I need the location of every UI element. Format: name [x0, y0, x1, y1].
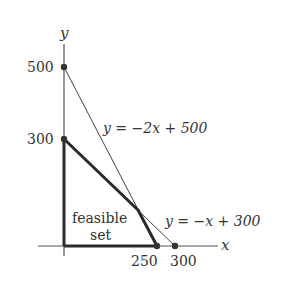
point-0-500: [61, 64, 67, 70]
y-tick-300: 300: [27, 131, 54, 147]
line-2x-label: y = −2x + 500: [102, 120, 208, 136]
x-tick-250: 250: [131, 253, 158, 269]
region-label-1: feasible: [72, 210, 127, 226]
feasible-set-diagram: y x 500 300 250 300 y = −2x + 500 y = −x…: [0, 0, 300, 289]
region-label-2: set: [90, 227, 111, 243]
point-250-0: [154, 243, 160, 249]
line-x-label: y = −x + 300: [164, 213, 261, 229]
point-0-300: [61, 136, 67, 142]
x-axis-label: x: [221, 236, 230, 254]
y-tick-500: 500: [27, 59, 54, 75]
point-300-0: [172, 243, 178, 249]
y-axis-label: y: [59, 24, 69, 42]
x-tick-300: 300: [170, 253, 197, 269]
